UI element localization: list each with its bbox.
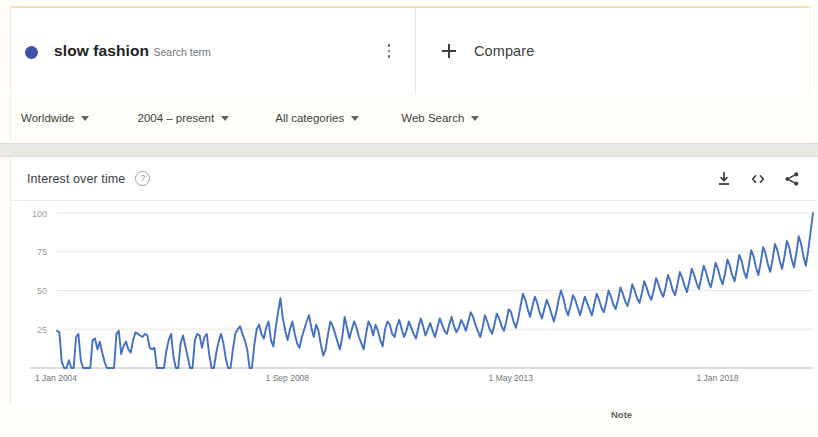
compare-label: Compare [474,43,534,59]
svg-text:100: 100 [32,209,47,219]
chevron-down-icon [221,116,229,121]
filter-bar: Worldwide 2004 – present All categories … [10,96,810,140]
note-annotation: Note [611,409,632,420]
section-divider [0,143,818,157]
filter-category[interactable]: All categories [275,112,359,124]
svg-text:1 Jan 2004: 1 Jan 2004 [35,373,77,383]
filter-search-type[interactable]: Web Search [401,112,479,124]
kebab-menu-icon[interactable] [379,40,399,62]
filter-time-range[interactable]: 2004 – present [137,112,229,124]
compare-button[interactable]: Compare [416,8,809,94]
embed-code-icon[interactable] [750,171,766,187]
search-term-subtitle: Search term [154,46,211,58]
chevron-down-icon [471,116,479,121]
search-term-texts: slow fashion Search term [54,42,379,60]
search-term-row: slow fashion Search term Compare [10,6,810,94]
search-term-card[interactable]: slow fashion Search term [11,8,416,94]
filter-search-type-label: Web Search [401,112,464,124]
svg-text:1 Sep 2008: 1 Sep 2008 [266,373,310,383]
filter-location-label: Worldwide [21,112,74,124]
card-actions [716,171,808,187]
download-icon[interactable] [716,171,732,187]
help-circle-icon[interactable]: ? [135,171,150,186]
filter-time-range-label: 2004 – present [137,112,214,124]
chevron-down-icon [81,116,89,121]
interest-line-chart[interactable]: 2550751001 Jan 20041 Sep 20081 May 20131… [11,201,817,404]
svg-text:1 Jan 2018: 1 Jan 2018 [697,373,739,383]
svg-text:1 May 2013: 1 May 2013 [489,373,534,383]
interest-over-time-card: Interest over time ? [10,157,816,405]
svg-text:25: 25 [37,325,47,335]
plus-icon [442,44,456,58]
series-color-dot [25,46,38,59]
card-header: Interest over time ? [11,157,816,201]
trends-page: slow fashion Search term Compare Worldwi… [0,0,818,437]
svg-text:75: 75 [37,247,47,257]
filter-location[interactable]: Worldwide [21,112,89,124]
svg-text:50: 50 [37,286,47,296]
chevron-down-icon [351,116,359,121]
card-title: Interest over time [27,172,125,186]
share-icon[interactable] [784,171,800,187]
filter-category-label: All categories [275,112,344,124]
search-term-title: slow fashion [54,42,149,59]
chart-area: 2550751001 Jan 20041 Sep 20081 May 20131… [11,201,816,404]
